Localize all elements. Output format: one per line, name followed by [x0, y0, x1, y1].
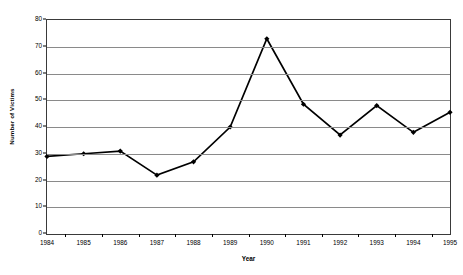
- y-axis-tick-label: 50: [35, 96, 42, 102]
- gridline: [47, 47, 450, 48]
- gridline: [47, 181, 450, 182]
- x-axis-tick-label: 1986: [113, 240, 127, 246]
- x-axis-tick-mark: [395, 234, 396, 237]
- x-axis-tick-mark: [65, 234, 66, 237]
- y-axis-tick-label: 10: [35, 203, 42, 209]
- x-axis-tick-label: 1988: [186, 240, 200, 246]
- x-axis-tick-mark: [102, 234, 103, 237]
- x-axis-tick-label: 1991: [296, 240, 310, 246]
- line-chart: Number of Victims 01020304050607080 1984…: [0, 0, 463, 275]
- y-axis-title-text: Number of Victims: [8, 88, 15, 144]
- x-axis-tick-mark: [432, 234, 433, 237]
- x-axis-tick-label: 1985: [77, 240, 91, 246]
- x-axis-tick-label: 1990: [260, 240, 274, 246]
- y-axis-tick-labels: 01020304050607080: [22, 14, 46, 233]
- gridline: [47, 127, 450, 128]
- x-axis-tick-label: 1993: [370, 240, 384, 246]
- x-axis-tick-mark: [285, 234, 286, 237]
- x-axis-tick-mark: [322, 234, 323, 237]
- gridline: [47, 74, 450, 75]
- gridline: [47, 207, 450, 208]
- y-axis-tick-label: 0: [38, 230, 42, 236]
- y-axis-tick-label: 30: [35, 150, 42, 156]
- y-axis-tick-label: 40: [35, 123, 42, 129]
- y-axis-tick-label: 80: [35, 16, 42, 22]
- gridline: [47, 100, 450, 101]
- x-axis-tick-mark: [358, 234, 359, 237]
- x-axis-tick-label: 1994: [406, 240, 420, 246]
- y-axis-tick-label: 20: [35, 176, 42, 182]
- x-axis-tick-mark: [139, 234, 140, 237]
- gridline: [47, 154, 450, 155]
- y-axis-title: Number of Victims: [0, 0, 22, 233]
- x-axis-tick-labels: 1984198519861987198819891990199119921993…: [46, 240, 451, 252]
- x-axis-title: Year: [46, 255, 451, 262]
- x-axis-tick-mark: [249, 234, 250, 237]
- y-axis-tick-label: 60: [35, 69, 42, 75]
- x-axis-tick-marks: [46, 234, 451, 238]
- y-axis-tick-label: 70: [35, 43, 42, 49]
- x-axis-tick-label: 1992: [333, 240, 347, 246]
- x-axis-tick-label: 1995: [443, 240, 457, 246]
- x-axis-tick-mark: [212, 234, 213, 237]
- plot-area: [46, 19, 451, 235]
- x-axis-tick-label: 1987: [150, 240, 164, 246]
- x-axis-tick-mark: [175, 234, 176, 237]
- x-axis-tick-label: 1989: [223, 240, 237, 246]
- x-axis-tick-label: 1984: [40, 240, 54, 246]
